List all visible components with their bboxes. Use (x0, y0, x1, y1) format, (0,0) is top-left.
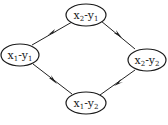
node-top: x2-y1 (66, 4, 106, 26)
node-bottom: x1-y2 (66, 92, 106, 114)
edge-left-to-bottom (33, 64, 72, 94)
arrowhead-icon (48, 29, 57, 35)
edge-right-to-bottom (100, 70, 135, 95)
node-right: x2-y2 (128, 49, 166, 71)
arrowhead-icon (114, 30, 122, 38)
node-left: x1-y1 (1, 44, 39, 66)
lattice-diagram: x2-y1 x1-y1 x2-y2 x1-y2 (0, 0, 168, 125)
arrowhead-icon (49, 75, 57, 84)
edge-top-to-right (101, 21, 135, 49)
edge-top-to-left (32, 22, 72, 45)
